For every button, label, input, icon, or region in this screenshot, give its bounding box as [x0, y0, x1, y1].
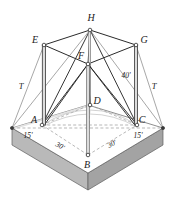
label-dim-right-15: 15' [133, 131, 143, 140]
label-point-F: F [77, 50, 85, 61]
label-point-C: C [139, 114, 146, 125]
label-point-D: D [92, 95, 101, 106]
label-guy-left: T [19, 81, 25, 91]
node-A [40, 123, 44, 127]
label-dim-left-15: 15' [23, 131, 33, 140]
node-G [134, 43, 138, 47]
post-h-f [89, 30, 91, 64]
node-E [42, 43, 46, 47]
label-point-G: G [140, 34, 147, 45]
label-guy-right: T [152, 81, 158, 91]
label-dim-height-40: 40' [121, 71, 131, 80]
member-h-g [90, 30, 136, 45]
label-point-A: A [30, 114, 38, 125]
node-D [88, 103, 92, 107]
node-B [86, 153, 90, 157]
guy-wire-e-left [12, 45, 44, 128]
figure-root: H E G F D A C B T T 40' 15' 15' 30' 30' [0, 0, 174, 200]
post-e-a [42, 45, 45, 125]
member-f-g [88, 45, 136, 64]
post-g-c [134, 45, 137, 125]
label-point-E: E [31, 34, 38, 45]
node-F [86, 62, 90, 66]
label-point-H: H [86, 12, 95, 23]
label-point-B: B [84, 159, 90, 170]
node-H [88, 28, 92, 32]
tower-diagram: H E G F D A C B T T 40' 15' 15' 30' 30' [0, 0, 174, 200]
node-anchor-right [161, 126, 164, 129]
post-f-b [87, 64, 90, 155]
node-anchor-left [10, 126, 13, 129]
